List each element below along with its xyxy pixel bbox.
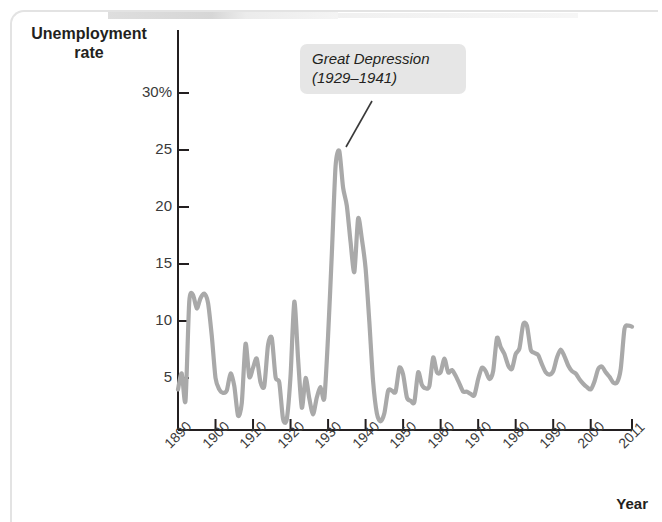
x-tick-label: 2000 xyxy=(574,418,607,451)
x-tick-label: 1970 xyxy=(461,418,494,451)
x-tick-label: 1990 xyxy=(536,418,569,451)
x-tick-label: 1890 xyxy=(161,418,194,451)
great-depression-callout-text: Great Depression (1929–1941) xyxy=(312,49,456,87)
x-tick-label: 1920 xyxy=(274,418,307,451)
great-depression-callout: Great Depression (1929–1941) xyxy=(300,44,466,94)
x-tick-label: 2011 xyxy=(615,419,648,452)
x-tick-label: 1910 xyxy=(236,418,269,451)
x-tick-label: 1960 xyxy=(424,418,457,451)
x-tick-label: 1900 xyxy=(199,418,232,451)
x-tick-label: 1930 xyxy=(311,418,344,451)
x-tick-label: 1950 xyxy=(386,418,419,451)
x-tick-label: 1940 xyxy=(349,418,382,451)
x-axis-title: Year xyxy=(616,495,648,512)
x-tick-label: 1980 xyxy=(499,418,532,451)
